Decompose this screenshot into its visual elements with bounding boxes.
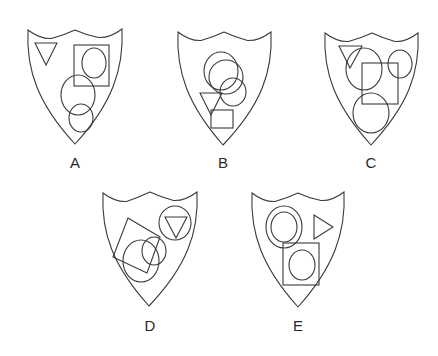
square-shape: [362, 63, 398, 104]
triangle-right-shape: [314, 215, 333, 239]
shield-option-e[interactable]: E: [252, 192, 344, 334]
circle-shape: [346, 48, 382, 90]
shield-option-b[interactable]: B: [178, 32, 271, 171]
triangle-down-shape: [35, 43, 57, 65]
square-shape: [283, 243, 319, 285]
shield-outline: [103, 192, 197, 306]
circle-shape: [142, 237, 166, 265]
square-shape: [211, 110, 233, 128]
circle-shape: [289, 250, 315, 280]
option-label: B: [218, 154, 228, 171]
shield-diagram: ABCDE: [0, 0, 438, 356]
circle-shape: [204, 52, 238, 90]
circle-shape: [69, 104, 93, 132]
shield-option-d[interactable]: D: [103, 192, 197, 334]
circle-shape: [123, 240, 159, 282]
option-label: A: [70, 154, 80, 171]
diagram-canvas: ABCDE: [0, 0, 438, 356]
circle-shape: [271, 212, 297, 242]
option-label: C: [366, 154, 377, 171]
circle-shape: [353, 93, 389, 133]
circle-shape: [159, 206, 191, 240]
shield-option-a[interactable]: A: [28, 29, 122, 171]
circle-shape: [82, 48, 106, 78]
square-shape: [74, 45, 109, 86]
option-label: D: [145, 317, 156, 334]
circle-shape: [388, 50, 412, 78]
shield-outline: [252, 192, 344, 307]
shield-option-c[interactable]: C: [325, 33, 418, 171]
option-label: E: [293, 317, 303, 334]
triangle-down-shape: [165, 217, 187, 238]
